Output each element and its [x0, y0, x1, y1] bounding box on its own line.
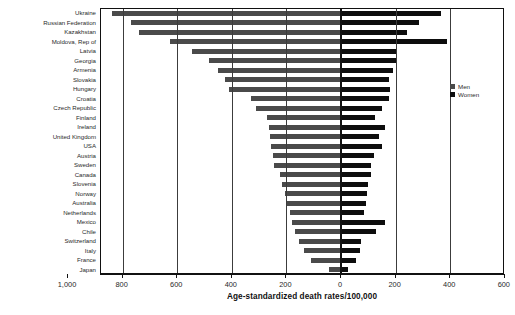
y-axis-label: Japan [79, 265, 96, 275]
gridline [396, 9, 397, 273]
y-axis-label: Italy [85, 246, 96, 256]
legend-swatch-men-icon [450, 84, 455, 89]
legend-item-men: Men [450, 82, 479, 90]
bar-women [341, 106, 382, 111]
table-row [101, 190, 503, 200]
bar-men [295, 229, 341, 234]
gridline [286, 9, 287, 273]
table-row [101, 256, 503, 266]
table-row [101, 19, 503, 29]
bar-men [270, 134, 341, 139]
y-axis-label: Mexico [77, 217, 96, 227]
table-row [101, 180, 503, 190]
bar-women [341, 68, 393, 73]
bar-women [341, 248, 360, 253]
table-row [101, 57, 503, 67]
legend-label-women: Women [458, 91, 479, 98]
y-axis-label: United Kingdom [53, 132, 96, 142]
y-axis-label: Finland [76, 113, 96, 123]
y-axis-label: Chile [82, 227, 96, 237]
y-axis-label: Armenia [73, 65, 96, 75]
y-axis-label: France [77, 255, 96, 265]
table-row [101, 47, 503, 57]
bar-women [341, 58, 396, 63]
bar-men [274, 163, 341, 168]
bar-men [271, 144, 341, 149]
table-row [101, 199, 503, 209]
table-row [101, 152, 503, 162]
y-axis-label: USA [83, 141, 96, 151]
table-row [101, 28, 503, 38]
gridline [123, 9, 124, 273]
bar-men [282, 182, 341, 187]
x-axis-line [100, 274, 504, 275]
bar-women [341, 172, 371, 177]
gridline [450, 9, 451, 273]
bar-women [341, 220, 385, 225]
bar-men [280, 172, 341, 177]
y-axis-label: Czech Republic [53, 103, 96, 113]
bar-women [341, 144, 382, 149]
table-row [101, 95, 503, 105]
x-axis-tick [395, 274, 396, 278]
y-axis-label: Netherlands [63, 208, 96, 218]
bar-men [273, 153, 341, 158]
y-axis-label: Norway [75, 189, 96, 199]
table-row [101, 114, 503, 124]
bar-rows [101, 9, 503, 273]
x-axis-tick-label: 0 [338, 280, 342, 289]
x-axis-tick-label: 200 [388, 280, 400, 289]
legend-item-women: Women [450, 90, 479, 98]
bar-men [311, 258, 341, 263]
bar-men [251, 96, 341, 101]
table-row [101, 171, 503, 181]
bar-women [341, 182, 368, 187]
zero-axis-line [340, 9, 342, 273]
bar-women [341, 134, 379, 139]
y-axis-label: Ukraine [75, 8, 96, 18]
y-axis-label: Kazakhstan [64, 27, 96, 37]
table-row [101, 76, 503, 86]
y-axis-label: Ireland [77, 122, 96, 132]
table-row [101, 209, 503, 219]
table-row [101, 133, 503, 143]
bar-women [341, 30, 407, 35]
table-row [101, 104, 503, 114]
bar-women [341, 258, 356, 263]
bar-men [267, 115, 341, 120]
y-axis-label: Russian Federation [43, 18, 96, 28]
bar-women [341, 229, 376, 234]
x-axis-tick-label: 400 [443, 280, 455, 289]
bar-women [341, 87, 390, 92]
bar-men [112, 11, 341, 16]
x-axis-tick [504, 274, 505, 278]
bar-men [225, 77, 341, 82]
bar-women [341, 210, 364, 215]
y-axis-label: Croatia [76, 94, 96, 104]
x-axis-tick-label: 200 [279, 280, 291, 289]
x-axis-tick-label: 1,000 [58, 280, 77, 289]
bar-women [341, 239, 361, 244]
table-row [101, 218, 503, 228]
bar-women [341, 153, 374, 158]
table-row [101, 123, 503, 133]
bar-women [341, 49, 397, 54]
table-row [101, 237, 503, 247]
x-axis-tick [285, 274, 286, 278]
y-axis-label: Switzerland [65, 236, 97, 246]
x-axis-tick [340, 274, 341, 278]
table-row [101, 247, 503, 257]
x-axis-tick-label: 600 [498, 280, 510, 289]
y-axis-label: Slovenia [73, 179, 96, 189]
y-axis-label: Canada [75, 170, 96, 180]
x-axis-tick-label: 600 [170, 280, 182, 289]
bar-men [218, 68, 341, 73]
bar-men [192, 49, 341, 54]
bar-women [341, 267, 348, 272]
chart-legend: Men Women [450, 82, 479, 98]
x-axis-tick [122, 274, 123, 278]
bar-men [329, 267, 341, 272]
table-row [101, 9, 503, 19]
legend-swatch-women-icon [450, 92, 455, 97]
x-axis-tick-label: 400 [225, 280, 237, 289]
